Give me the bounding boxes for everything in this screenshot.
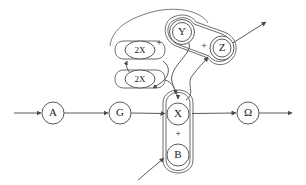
edge-input-to-b	[138, 158, 164, 180]
operator-plus-yz-right: +	[201, 40, 207, 51]
node-b-label: B	[174, 148, 181, 160]
node-omega-label: Ω	[244, 106, 252, 118]
node-a-label: A	[49, 106, 57, 118]
node-2x-top-label: 2X	[135, 45, 147, 55]
diagram-svg: A G X B Ω Y Z 2X 2X + + +	[0, 0, 306, 185]
diagram-canvas: A G X B Ω Y Z 2X 2X + + +	[0, 0, 306, 185]
node-z-label: Z	[219, 41, 226, 53]
edge-yz-to-output	[228, 22, 266, 46]
edge-g-to-x	[131, 113, 165, 114]
node-x-label: X	[174, 107, 182, 119]
node-2x-bottom-label: 2X	[135, 74, 147, 84]
node-g-label: G	[116, 106, 124, 118]
operator-plus-xb: +	[175, 128, 181, 139]
node-y-label: Y	[178, 25, 186, 37]
edge-x-to-omega	[192, 113, 236, 114]
edge-2x-top-to-2x-bot	[153, 61, 168, 88]
operator-plus-yz-left: +	[156, 37, 162, 48]
